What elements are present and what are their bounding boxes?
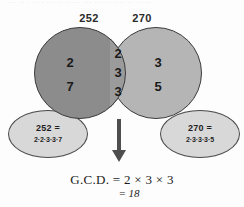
cropped-text-remnant: ··· ·· · ···· ··· ·· ····· ··· ······ ··… <box>8 0 236 7</box>
right-only-factor: 5 <box>151 79 165 94</box>
left-set-label: 252 <box>74 12 104 24</box>
left-bubble-factors: 2·2·3·3·7 <box>9 136 87 143</box>
left-bubble-title: 252 = <box>9 123 87 133</box>
gcd-expression: G.C.D. = 2 × 3 × 3 <box>0 172 244 188</box>
left-only-factor: 2 <box>63 55 77 70</box>
right-bubble-title: 270 = <box>161 123 239 133</box>
right-factorization-bubble: 270 = 2·3·3·3·5 <box>160 110 240 158</box>
right-only-factor: 3 <box>151 55 165 70</box>
intersection-factor: 2 <box>111 46 125 61</box>
intersection-factor: 3 <box>111 65 125 80</box>
down-arrow-head-icon <box>112 150 126 162</box>
down-arrow-icon <box>117 119 121 154</box>
venn-gcd-figure: ··· ·· · ···· ··· ·· ····· ··· ······ ··… <box>0 0 244 207</box>
intersection-factor: 3 <box>111 84 125 99</box>
right-bubble-factors: 2·3·3·3·5 <box>161 136 239 143</box>
right-set-label: 270 <box>127 12 157 24</box>
gcd-value: = 18 <box>0 187 244 199</box>
left-only-factor: 7 <box>63 79 77 94</box>
